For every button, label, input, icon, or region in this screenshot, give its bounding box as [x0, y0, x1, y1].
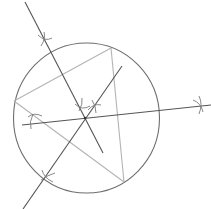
arc-mark-top: [38, 32, 52, 46]
arc-mark-center-left: [75, 98, 90, 111]
construction-arcs: [28, 32, 203, 182]
bisector-top-left-side: [25, 2, 103, 153]
arc-mark-right: [193, 96, 203, 114]
geometry-diagram: [0, 0, 211, 209]
circumcenter-point: [84, 117, 86, 119]
triangle-side-left-bottom: [14, 101, 124, 182]
